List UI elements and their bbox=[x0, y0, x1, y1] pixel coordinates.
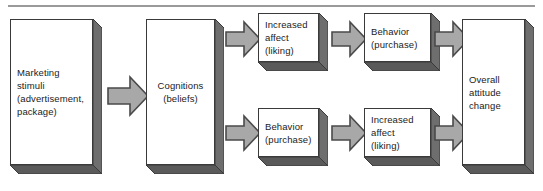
node-behavior-bottom: Behavior (purchase) bbox=[258, 108, 328, 166]
node-cognitions: Cognitions (beliefs) bbox=[146, 19, 224, 174]
arrow-affect-top-to-behavior-top bbox=[330, 19, 368, 59]
arrow-cognitions-to-affect-top bbox=[224, 19, 262, 59]
arrow-cognitions-to-behavior-bottom bbox=[224, 113, 262, 153]
node-increased-affect-bottom: Increased affect (liking) bbox=[364, 108, 440, 166]
arrow-behavior-bottom-to-affect-bottom bbox=[330, 113, 368, 153]
node-behavior-top: Behavior (purchase) bbox=[364, 13, 440, 71]
node-label: Behavior (purchase) bbox=[364, 13, 431, 62]
node-label: Cognitions (beliefs) bbox=[146, 19, 215, 165]
diagram-canvas: Marketing stimuli (advertisement, packag… bbox=[0, 0, 543, 191]
node-label: Marketing stimuli (advertisement, packag… bbox=[10, 19, 93, 165]
top-divider-rule bbox=[8, 5, 535, 7]
node-marketing-stimuli: Marketing stimuli (advertisement, packag… bbox=[10, 19, 102, 174]
arrow-stimuli-to-cognitions bbox=[106, 74, 150, 118]
node-overall-attitude-change: Overall attitude change bbox=[462, 19, 534, 174]
node-label: Increased affect (liking) bbox=[258, 13, 319, 62]
node-label: Behavior (purchase) bbox=[258, 108, 319, 157]
node-label: Increased affect (liking) bbox=[364, 108, 431, 157]
node-increased-affect-top: Increased affect (liking) bbox=[258, 13, 328, 71]
node-label: Overall attitude change bbox=[462, 19, 525, 165]
